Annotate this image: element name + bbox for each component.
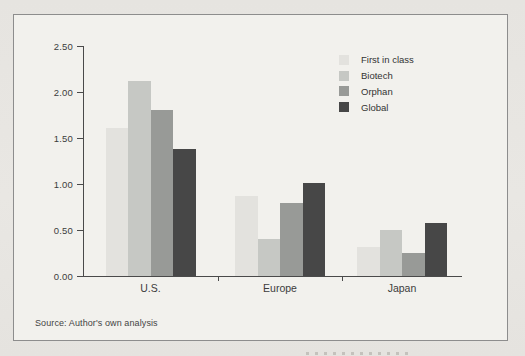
x-category-label: Europe <box>220 282 340 294</box>
y-tick-label: 0.00 <box>37 271 73 282</box>
bar-orphan-europe <box>280 203 303 276</box>
bar-first-in-class-europe <box>235 196 258 276</box>
x-tick-mark <box>218 276 219 281</box>
legend-swatch-icon <box>339 102 349 112</box>
y-tick-label: 0.50 <box>37 225 73 236</box>
bar-chart: 0.000.501.001.502.002.50U.S.EuropeJapanF… <box>0 0 525 356</box>
y-axis-line <box>83 46 84 277</box>
legend-label: Biotech <box>361 70 393 81</box>
bar-biotech-us <box>128 81 151 276</box>
y-tick-label: 2.00 <box>37 87 73 98</box>
source-note: Source: Author's own analysis <box>35 318 158 328</box>
legend-swatch-icon <box>339 71 349 81</box>
y-tick-mark <box>77 46 83 47</box>
legend-swatch-icon <box>339 55 349 65</box>
y-tick-mark <box>77 138 83 139</box>
clipped-caption-marks <box>306 352 410 355</box>
legend: First in classBiotechOrphanGlobal <box>339 52 414 115</box>
bar-biotech-europe <box>258 239 281 276</box>
legend-item: Global <box>339 99 414 115</box>
bar-global-us <box>173 149 196 276</box>
bar-orphan-us <box>151 110 174 276</box>
legend-label: Orphan <box>361 86 393 97</box>
bar-global-europe <box>303 183 326 276</box>
x-category-label: U.S. <box>91 282 211 294</box>
bar-global-japan <box>425 223 448 276</box>
bar-orphan-japan <box>402 253 425 276</box>
legend-swatch-icon <box>339 86 349 96</box>
bar-first-in-class-japan <box>357 247 380 276</box>
legend-label: First in class <box>361 54 414 65</box>
bar-biotech-japan <box>380 230 403 276</box>
x-axis-line <box>83 276 462 277</box>
legend-item: Orphan <box>339 84 414 100</box>
y-tick-label: 2.50 <box>37 41 73 52</box>
y-tick-mark <box>77 92 83 93</box>
y-tick-mark <box>77 184 83 185</box>
legend-item: Biotech <box>339 68 414 84</box>
y-tick-label: 1.00 <box>37 179 73 190</box>
x-category-label: Japan <box>342 282 462 294</box>
legend-item: First in class <box>339 52 414 68</box>
x-tick-mark <box>342 276 343 281</box>
bar-first-in-class-us <box>106 128 129 276</box>
y-tick-mark <box>77 276 83 277</box>
y-tick-mark <box>77 230 83 231</box>
scanned-page: 0.000.501.001.502.002.50U.S.EuropeJapanF… <box>0 0 525 356</box>
legend-label: Global <box>361 102 388 113</box>
y-tick-label: 1.50 <box>37 133 73 144</box>
